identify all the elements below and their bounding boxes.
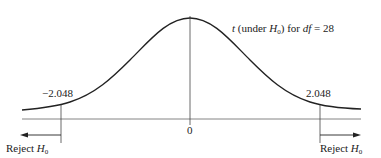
- reject-label-right: Reject H0: [320, 143, 362, 156]
- critical-value-left: −2.048: [42, 88, 73, 99]
- arrowhead-right-icon: [353, 133, 361, 138]
- curve-title: t (under H0) for df = 28: [232, 23, 334, 36]
- arrowhead-left-icon: [20, 133, 28, 138]
- critical-value-right: 2.048: [306, 88, 331, 99]
- reject-label-left: Reject H0: [6, 143, 48, 156]
- center-value: 0: [187, 125, 193, 136]
